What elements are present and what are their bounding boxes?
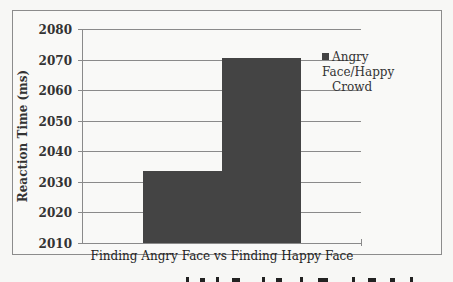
bar-chart: 2080 2070 2060 2050 2040 2030 2020 2010 … xyxy=(0,0,453,282)
x-axis-title: Finding Angry Face vs Finding Happy Face xyxy=(91,249,354,263)
bar-finding-angry-face xyxy=(143,171,222,243)
legend-label-line2: Crowd xyxy=(322,80,442,95)
y-tick-label: 2040 xyxy=(39,145,72,159)
legend-item: Angry Face/Happy xyxy=(322,50,442,80)
legend-label-line1: Angry Face/Happy xyxy=(322,50,394,79)
y-tick-labels: 2080 2070 2060 2050 2040 2030 2020 2010 xyxy=(39,23,72,251)
cropped-caption-fragment xyxy=(186,277,413,282)
legend: Angry Face/Happy Crowd xyxy=(322,50,442,95)
y-tick-label: 2030 xyxy=(39,176,72,190)
y-tick-label: 2010 xyxy=(39,237,72,251)
y-axis-title: Reaction Time (ms) xyxy=(16,70,30,203)
bar-finding-happy-face xyxy=(222,58,301,243)
y-tick-label: 2020 xyxy=(39,206,72,220)
y-tick-label: 2050 xyxy=(39,115,72,129)
legend-swatch-icon xyxy=(322,53,329,60)
y-tick-label: 2060 xyxy=(39,84,72,98)
y-tick-label: 2080 xyxy=(39,23,72,37)
y-tick-label: 2070 xyxy=(39,54,72,68)
